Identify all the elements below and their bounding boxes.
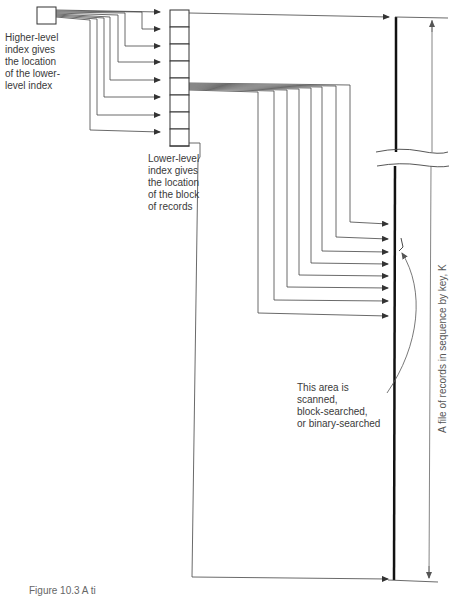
- top-cell-pointer: [189, 13, 389, 17]
- file-axis-label: A file of records in sequence by key, K: [437, 264, 448, 433]
- search-area-curve-arrow: [387, 253, 416, 393]
- file-top-tick: [395, 17, 448, 18]
- search-area-bracket: [399, 238, 403, 251]
- lower-index-pointers: [189, 83, 388, 316]
- file-bottom-tick: [388, 580, 438, 582]
- higher-level-index-label: Higher-level index gives the location of…: [5, 32, 60, 92]
- higher-index-pointers: [56, 10, 160, 132]
- figure-caption: Figure 10.3 A ti: [29, 585, 96, 596]
- file-of-records-line: [394, 17, 396, 580]
- lower-level-index-cells: [170, 10, 189, 146]
- lower-level-index-label: Lower-level index gives the location of …: [148, 153, 199, 213]
- bottom-cell-pointer: [189, 143, 388, 579]
- search-note-label: This area is scanned, block-searched, or…: [297, 382, 380, 430]
- file-extent-dimension: [429, 20, 432, 578]
- break-marks: [376, 149, 449, 167]
- higher-level-index-box: [37, 7, 56, 24]
